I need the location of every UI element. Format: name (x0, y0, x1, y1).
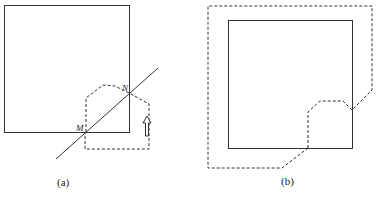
point-label-n: N (122, 83, 128, 93)
dashed-path-b (208, 6, 372, 168)
caption-a: (a) (57, 176, 69, 188)
figure-a (5, 6, 159, 160)
diagram-canvas (0, 0, 376, 197)
caption-b: (b) (281, 175, 294, 187)
cut-line (56, 68, 158, 159)
square-b (229, 21, 353, 149)
figure-b (208, 6, 372, 168)
square-a (5, 6, 130, 133)
up-arrow-icon (143, 116, 151, 136)
dashed-path-a (85, 85, 149, 149)
point-label-m: M (76, 123, 84, 133)
